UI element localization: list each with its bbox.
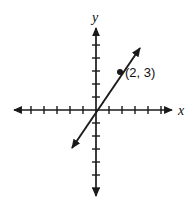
data-points: (2, 3) (117, 65, 155, 80)
plotted-line (72, 48, 140, 148)
coordinate-plane-figure: (2, 3) x y (0, 0, 192, 204)
data-point-label: (2, 3) (125, 65, 155, 80)
y-axis-label: y (90, 10, 99, 25)
x-axis (14, 106, 172, 114)
data-point-marker (117, 69, 123, 75)
x-axis-label: x (177, 103, 185, 118)
linear-function-line (72, 48, 140, 148)
graph-canvas: (2, 3) x y (0, 0, 192, 204)
